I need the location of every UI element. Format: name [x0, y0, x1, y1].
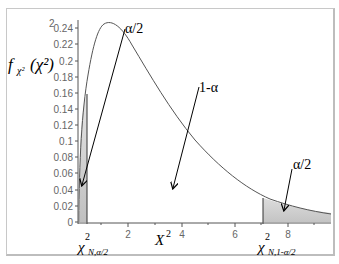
svg-text:0.1: 0.1 — [59, 136, 73, 147]
svg-text:N,α/2: N,α/2 — [87, 247, 108, 257]
svg-text:0.02: 0.02 — [54, 201, 74, 212]
svg-text:χ: χ — [256, 239, 265, 255]
svg-text:0.06: 0.06 — [54, 168, 74, 179]
x-ticks — [101, 223, 314, 227]
svg-text:0.24: 0.24 — [54, 23, 74, 34]
svg-text:2: 2 — [125, 229, 131, 240]
svg-text:4: 4 — [179, 229, 185, 240]
svg-text:f: f — [8, 55, 15, 74]
svg-text:0.22: 0.22 — [54, 39, 74, 50]
chi-square-chart: 0 0.02 0.04 0.06 0.08 0.1 0.12 0.14 0.16… — [0, 0, 339, 264]
svg-text:N,1-α/2: N,1-α/2 — [267, 247, 296, 257]
pdf-curve — [79, 23, 331, 222]
svg-text:2: 2 — [85, 231, 90, 242]
svg-text:(χ²): (χ²) — [30, 55, 54, 74]
svg-text:0.04: 0.04 — [54, 185, 74, 196]
svg-text:χ: χ — [76, 239, 85, 255]
svg-text:0.08: 0.08 — [54, 152, 74, 163]
svg-text:0.2: 0.2 — [59, 56, 73, 67]
arrow-upper-tail — [284, 169, 292, 210]
svg-text:2: 2 — [166, 228, 171, 239]
svg-text:6: 6 — [232, 229, 238, 240]
alpha-half-upper-label: α/2 — [293, 157, 311, 172]
y-axis-label: f χ² (χ²) — [8, 55, 54, 76]
svg-text:X: X — [154, 232, 165, 248]
svg-text:χ²: χ² — [16, 65, 25, 76]
svg-text:2: 2 — [265, 231, 270, 242]
corner-mark: 2 — [49, 18, 55, 29]
svg-text:0.16: 0.16 — [54, 88, 74, 99]
alpha-half-lower-label: α/2 — [125, 21, 143, 36]
arrow-lower-tail — [82, 29, 125, 185]
y-tick-labels: 0 0.02 0.04 0.06 0.08 0.1 0.12 0.14 0.16… — [54, 23, 74, 228]
svg-text:0.12: 0.12 — [54, 120, 74, 131]
x-axis-label: X 2 — [154, 228, 171, 248]
svg-text:0: 0 — [67, 217, 73, 228]
svg-text:8: 8 — [285, 229, 291, 240]
svg-text:0.18: 0.18 — [54, 72, 74, 83]
one-minus-alpha-label: 1-α — [199, 80, 219, 95]
upper-tail-area — [263, 198, 331, 222]
svg-text:0.14: 0.14 — [54, 104, 74, 115]
arrow-central — [173, 87, 199, 188]
lower-critical-label: 2 χ N,α/2 — [76, 231, 108, 257]
